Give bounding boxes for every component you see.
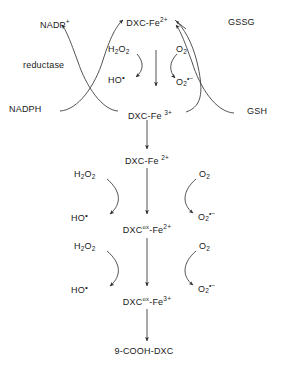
- arrow-o2-to-superoxide-low: [185, 251, 196, 285]
- arrow-gsh-to-gssg: [176, 25, 234, 113]
- arrow-h2o2-to-hydroxyl-mid: [107, 179, 118, 214]
- label-reductase: reductase: [23, 60, 64, 70]
- label-o2-mid: O2: [199, 169, 210, 182]
- label-h2o2-top: H2O2: [108, 44, 130, 57]
- arrow-dxc-fe3-to-nadp: [62, 25, 118, 111]
- label-gsh: GSH: [247, 106, 267, 116]
- label-superoxide-top: O2•−: [176, 74, 194, 89]
- label-gssg: GSSG: [228, 17, 255, 27]
- label-h2o2-mid: H2O2: [74, 169, 96, 182]
- label-h2o2-low: H2O2: [74, 241, 96, 254]
- reaction-diagram: NADP+ reductase NADPH GSSG GSH DXC-Fe2+ …: [0, 0, 282, 370]
- label-hydroxyl-low: HO•: [71, 283, 88, 295]
- label-superoxide-mid: O2•−: [198, 209, 216, 224]
- label-dxc-fe3-top: DXC-Fe 3+: [128, 108, 172, 121]
- label-dxc-fe2-mid: DXC-Fe 2+: [125, 153, 169, 166]
- arrow-h2o2-to-hydroxyl-top: [136, 54, 142, 77]
- label-hydroxyl-mid: HO•: [71, 211, 88, 223]
- label-dxc-ox-fe3: DXCox-Fe3+: [123, 294, 171, 307]
- label-nadp-plus: NADP+: [40, 17, 70, 30]
- label-dxc-ox-fe2: DXCox-Fe2+: [123, 222, 171, 235]
- arrow-h2o2-to-hydroxyl-low: [107, 251, 118, 286]
- label-superoxide-low: O2•−: [198, 281, 216, 296]
- label-o2-top: O2: [176, 44, 187, 57]
- label-dxc-fe2-top: DXC-Fe2+: [126, 15, 168, 28]
- arrow-nadph-to-dxc-fe2: [60, 20, 123, 111]
- label-nadph: NADPH: [9, 104, 42, 114]
- label-product: 9-COOH-DXC: [114, 346, 173, 356]
- arrow-dxc-fe2-right-limb: [175, 20, 201, 112]
- arrow-o2-to-superoxide-mid: [185, 179, 196, 213]
- diagram-canvas: [0, 0, 282, 370]
- label-o2-low: O2: [199, 241, 210, 254]
- label-hydroxyl-top: HO•: [108, 73, 125, 85]
